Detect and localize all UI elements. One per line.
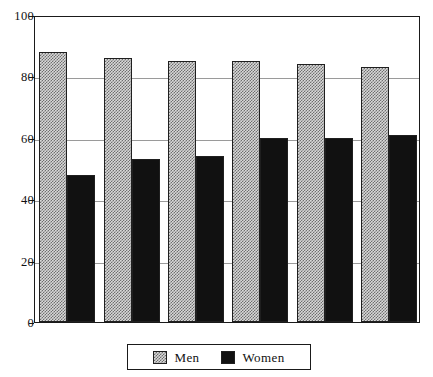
bar-women-4 xyxy=(260,138,288,322)
y-tick-label-40: 40 xyxy=(7,194,34,207)
bar-women-2 xyxy=(132,159,160,322)
bar-men-2 xyxy=(104,58,132,322)
y-tick-label-0: 0 xyxy=(7,317,34,330)
legend-entry-men: Men xyxy=(153,351,199,364)
bar-men-5 xyxy=(297,64,325,322)
plot-area xyxy=(34,16,420,323)
bar-men-1 xyxy=(39,52,67,322)
chart-legend: Men Women xyxy=(127,344,311,370)
bar-men-3 xyxy=(168,61,196,322)
bar-women-3 xyxy=(196,156,224,322)
legend-entry-women: Women xyxy=(221,351,284,364)
y-tick-label-80: 80 xyxy=(7,71,34,84)
y-tick-label-60: 60 xyxy=(7,133,34,146)
bar-men-4 xyxy=(232,61,260,322)
legend-swatch-men-icon xyxy=(153,351,167,364)
legend-label-men: Men xyxy=(174,351,199,364)
y-tick-label-100: 100 xyxy=(7,10,34,23)
bar-chart: 020406080100 Men Women xyxy=(0,0,433,377)
y-tick-label-20: 20 xyxy=(7,256,34,269)
y-axis: 020406080100 xyxy=(0,0,34,340)
bar-women-5 xyxy=(325,138,353,322)
bar-women-6 xyxy=(389,135,417,322)
legend-label-women: Women xyxy=(242,351,284,364)
bar-women-1 xyxy=(67,175,95,322)
legend-swatch-women-icon xyxy=(221,351,235,364)
bar-men-6 xyxy=(361,67,389,322)
bars-layer xyxy=(35,17,419,322)
